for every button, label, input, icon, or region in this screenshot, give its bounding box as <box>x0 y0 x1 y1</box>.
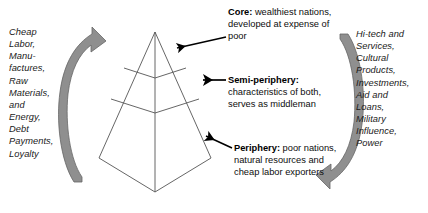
tier-term-periphery: Periphery <box>234 143 277 153</box>
tier-description-semi-periphery: characteristics of both, serves as middl… <box>228 87 321 109</box>
right-flow-label: Hi-tech and Services, Cultural Products,… <box>356 28 426 150</box>
left-flow-label: Cheap Labor, Manu- factures, Raw Materia… <box>9 26 65 160</box>
tier-term-semi-periphery: Semi-periphery <box>228 75 296 85</box>
tier-callout-semi-periphery: Semi-periphery: characteristics of both,… <box>228 74 336 110</box>
tier-term-core: Core <box>228 7 249 17</box>
tier-separator-semi-periphery: : <box>296 75 299 85</box>
tier-callout-core: Core: wealthiest nations, developed at e… <box>228 6 336 42</box>
tier-callout-periphery: Periphery: poor nations, natural resourc… <box>234 142 342 178</box>
